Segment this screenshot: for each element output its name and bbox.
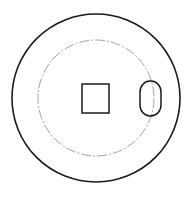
outer-circle: [12, 14, 180, 182]
technical-drawing: [0, 0, 189, 198]
pitch-circle-centerline: [38, 40, 154, 156]
oblong-slot: [140, 81, 161, 116]
center-square-hole: [82, 84, 109, 113]
